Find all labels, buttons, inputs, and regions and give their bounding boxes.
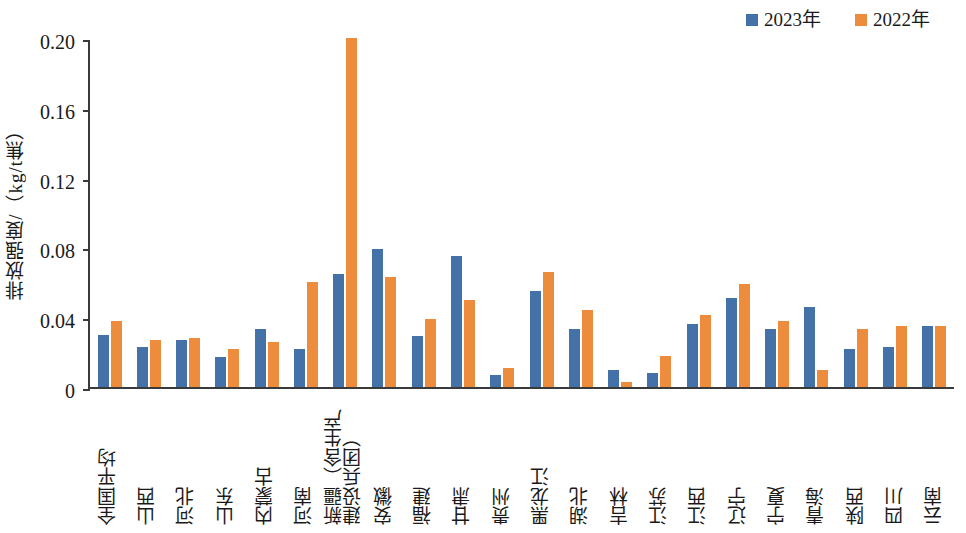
y-axis-tick: 0.16 xyxy=(83,110,90,112)
x-axis-label: 内蒙古 xyxy=(255,393,275,525)
bar-2023 xyxy=(687,324,698,387)
y-axis-tick-label: 0.04 xyxy=(40,311,75,331)
x-axis-label: 云南 xyxy=(924,393,944,525)
bar-2023 xyxy=(372,249,383,387)
x-axis-label: 山东 xyxy=(216,393,236,525)
bar-group xyxy=(640,40,679,387)
x-axis-label-cell: 云南 xyxy=(915,393,954,525)
bar-2023 xyxy=(176,340,187,387)
bar-2023 xyxy=(804,307,815,387)
bar-2023 xyxy=(255,329,266,387)
bar-2023 xyxy=(490,375,501,387)
bar-group xyxy=(836,40,875,387)
bar-group xyxy=(483,40,522,387)
x-axis-label: 全国平均 xyxy=(98,393,118,525)
bar-2023 xyxy=(137,347,148,387)
x-axis-label-cell: 江苏 xyxy=(639,393,678,525)
plot-area: 0.200.160.120.080.040 xyxy=(88,40,954,389)
x-axis-label: 福建 xyxy=(413,393,433,525)
bar-2022 xyxy=(817,370,828,387)
bar-group xyxy=(169,40,208,387)
y-axis-tick: 0.20 xyxy=(83,40,90,42)
bar-2022 xyxy=(700,315,711,387)
bar-2022 xyxy=(385,277,396,387)
bar-2022 xyxy=(543,272,554,387)
x-axis-label-cell: 辽宁 xyxy=(718,393,757,525)
x-axis-label: 江苏 xyxy=(649,393,669,525)
bar-group xyxy=(129,40,168,387)
bar-2023 xyxy=(844,349,855,387)
x-axis-label-cell: 甘肃 xyxy=(443,393,482,525)
x-axis-label: 青海 xyxy=(806,393,826,525)
x-axis-label-cell: 山西 xyxy=(127,393,166,525)
x-axis-label-cell: 福建 xyxy=(403,393,442,525)
legend-swatch-icon xyxy=(855,14,867,26)
bar-group xyxy=(679,40,718,387)
bar-2023 xyxy=(647,373,658,387)
bar-group xyxy=(365,40,404,387)
x-axis-label: 河北 xyxy=(176,393,196,525)
bar-2022 xyxy=(896,326,907,387)
bar-2022 xyxy=(739,284,750,387)
bar-group xyxy=(522,40,561,387)
bar-2022 xyxy=(346,38,357,387)
bar-group xyxy=(915,40,954,387)
bar-2022 xyxy=(503,368,514,387)
legend-label: 2023年 xyxy=(764,10,821,29)
bar-2023 xyxy=(294,349,305,387)
bar-group xyxy=(600,40,639,387)
chart-legend: 2023年 2022年 xyxy=(746,10,930,29)
x-axis-label: 陕西 xyxy=(846,393,866,525)
x-axis-label: 黑龙江 xyxy=(531,393,551,525)
x-axis-label-cell: 新疆（含生产建设兵团） xyxy=(324,393,364,525)
bar-2022 xyxy=(111,321,122,387)
x-axis-label-cell: 四川 xyxy=(875,393,914,525)
bar-2023 xyxy=(608,370,619,387)
x-axis-label-cell: 陕西 xyxy=(836,393,875,525)
y-axis-tick-label: 0.16 xyxy=(40,101,75,121)
x-axis-label: 湖北 xyxy=(570,393,590,525)
bar-2023 xyxy=(922,326,933,387)
bar-group xyxy=(326,40,365,387)
bar-2023 xyxy=(726,298,737,387)
x-axis-labels: 全国平均山西河北山东内蒙古河南新疆（含生产建设兵团）安徽福建甘肃贵州黑龙江湖北吉… xyxy=(88,393,954,525)
bar-2023 xyxy=(569,329,580,387)
x-axis-label: 四川 xyxy=(885,393,905,525)
x-axis-label-cell: 山东 xyxy=(206,393,245,525)
bar-group xyxy=(286,40,325,387)
x-axis-label: 吉林 xyxy=(610,393,630,525)
x-axis-label: 贵州 xyxy=(492,393,512,525)
x-axis-label-cell: 全国平均 xyxy=(88,393,127,525)
x-axis-label: 宁夏 xyxy=(767,393,787,525)
legend-item-2022: 2022年 xyxy=(855,10,930,29)
x-axis-label-cell: 黑龙江 xyxy=(521,393,560,525)
bar-2023 xyxy=(98,335,109,387)
legend-label: 2022年 xyxy=(873,10,930,29)
bar-2023 xyxy=(530,291,541,387)
y-axis-tick: 0.04 xyxy=(83,319,90,321)
x-axis-label: 新疆（含生产建设兵团） xyxy=(324,393,364,525)
bar-2022 xyxy=(189,338,200,387)
bar-group xyxy=(208,40,247,387)
x-axis-label: 安徽 xyxy=(374,393,394,525)
bar-2023 xyxy=(451,256,462,387)
bar-group xyxy=(90,40,129,387)
bar-group xyxy=(561,40,600,387)
bar-2022 xyxy=(307,282,318,387)
x-axis-label: 山西 xyxy=(137,393,157,525)
bar-group xyxy=(247,40,286,387)
y-axis-title: 排放强度/（kg/t焦） xyxy=(2,120,32,300)
x-axis-label-cell: 湖北 xyxy=(561,393,600,525)
bar-series-container xyxy=(90,40,954,387)
x-axis-label: 江西 xyxy=(688,393,708,525)
y-axis-tick-label: 0 xyxy=(65,381,75,401)
bar-group xyxy=(797,40,836,387)
x-axis-label-cell: 安徽 xyxy=(364,393,403,525)
bar-2023 xyxy=(883,347,894,387)
bar-2022 xyxy=(425,319,436,387)
bar-chart: 2023年 2022年 排放强度/（kg/t焦） 0.200.160.120.0… xyxy=(0,0,966,533)
bar-2022 xyxy=(582,310,593,387)
x-axis-label: 甘肃 xyxy=(452,393,472,525)
bar-2022 xyxy=(857,329,868,387)
legend-item-2023: 2023年 xyxy=(746,10,821,29)
